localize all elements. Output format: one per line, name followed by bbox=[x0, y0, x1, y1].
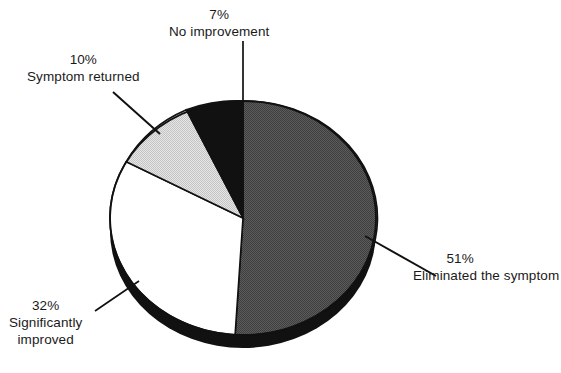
callout-eliminated-label: Eliminated the symptom bbox=[413, 267, 559, 284]
pie-slice-eliminated-the-symptom bbox=[235, 101, 377, 335]
callout-no-improvement-label: No improvement bbox=[169, 23, 269, 40]
callout-significantly-improved-percent: 32% bbox=[9, 297, 82, 314]
callout-no-improvement: 7% No improvement bbox=[169, 6, 269, 40]
callout-no-improvement-percent: 7% bbox=[169, 6, 269, 23]
callout-significantly-improved: 32% Significantly improved bbox=[9, 297, 82, 348]
callout-significantly-improved-label-line2: improved bbox=[9, 331, 82, 348]
callout-symptom-returned-percent: 10% bbox=[27, 51, 140, 68]
callout-significantly-improved-label-line1: Significantly bbox=[9, 314, 82, 331]
callout-eliminated-percent: 51% bbox=[413, 250, 559, 267]
leader-line-significantly-improved bbox=[95, 281, 139, 311]
leader-line-symptom-returned bbox=[113, 92, 160, 134]
pie-chart-figure: 7% No improvement 10% Symptom returned 3… bbox=[0, 0, 561, 373]
callout-eliminated-the-symptom: 51% Eliminated the symptom bbox=[413, 250, 559, 284]
callout-symptom-returned-label: Symptom returned bbox=[27, 68, 140, 85]
callout-symptom-returned: 10% Symptom returned bbox=[27, 51, 140, 85]
